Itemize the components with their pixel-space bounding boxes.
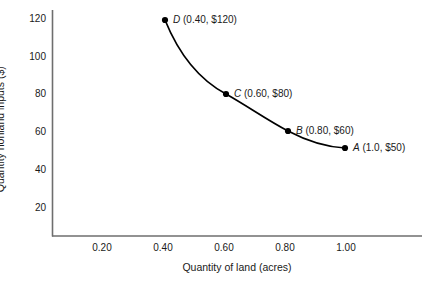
x-tick-label-1.00: 1.00: [336, 243, 355, 253]
x-tick-label-0.60: 0.60: [214, 243, 233, 253]
point-coords-A: (1.0, $50): [362, 142, 405, 153]
point-coords-D: (0.40, $120): [183, 14, 237, 25]
x-tick-label-0.20: 0.20: [92, 243, 111, 253]
y-axis-title: Quantity nonland inputs ($): [0, 66, 5, 192]
x-axis-title: Quantity of land (acres): [182, 262, 291, 273]
data-point-C: [223, 91, 229, 97]
y-tick-label-80: 80: [22, 89, 46, 99]
point-label-D: D (0.40, $120): [173, 15, 237, 25]
y-tick-label-120: 120: [22, 14, 46, 24]
y-tick-label-100: 100: [22, 52, 46, 62]
point-letter-D: D: [173, 14, 180, 25]
x-tick-label-0.80: 0.80: [275, 243, 294, 253]
point-coords-B: (0.80, $60): [305, 125, 353, 136]
point-letter-A: A: [353, 142, 360, 153]
point-label-C: C (0.60, $80): [234, 89, 292, 99]
data-point-D: [162, 17, 168, 23]
y-tick-label-20: 20: [22, 203, 46, 213]
point-label-B: B (0.80, $60): [296, 126, 354, 136]
point-coords-C: (0.60, $80): [244, 88, 292, 99]
point-letter-B: B: [296, 125, 303, 136]
point-letter-C: C: [234, 88, 241, 99]
x-tick-label-0.40: 0.40: [153, 243, 172, 253]
plot-area: [0, 0, 429, 281]
point-label-A: A (1.0, $50): [353, 143, 405, 153]
data-point-B: [285, 128, 291, 134]
y-tick-label-60: 60: [22, 127, 46, 137]
y-tick-label-40: 40: [22, 165, 46, 175]
isoquant-chart-figure: 120 100 80 60 40 20 0.20 0.40 0.60 0.80 …: [0, 0, 429, 281]
data-point-A: [342, 145, 348, 151]
